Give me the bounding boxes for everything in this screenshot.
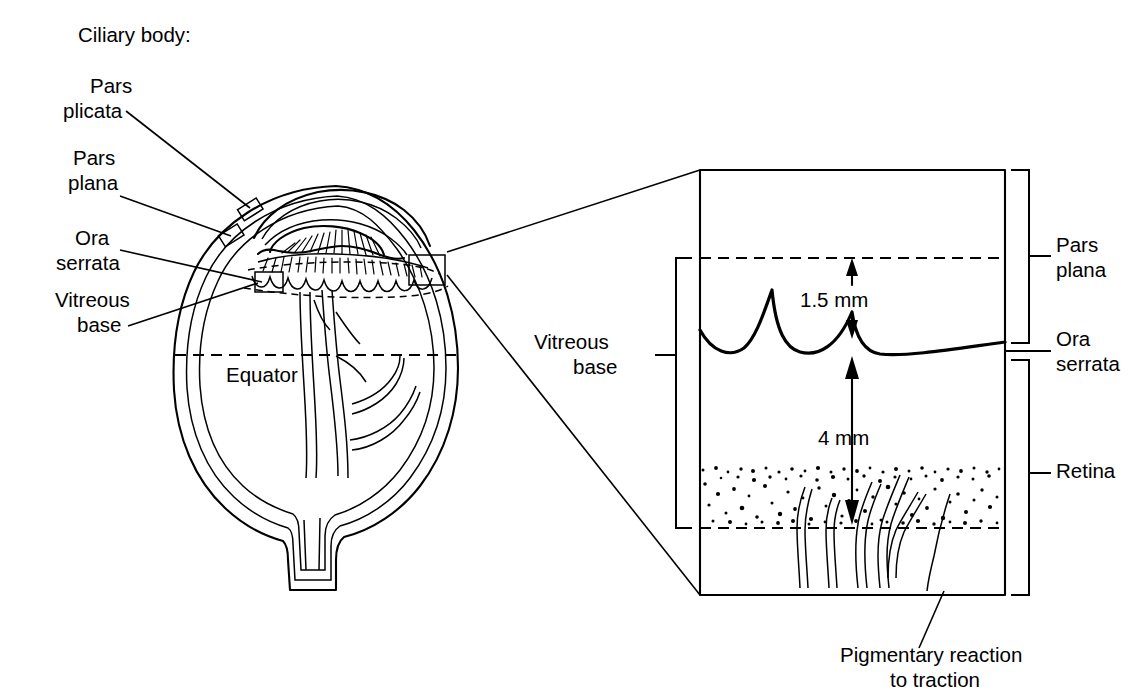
inset-label-ora-serrata-line1: Ora	[1056, 327, 1091, 350]
label-vitreous-base-line1: Vitreous	[55, 288, 130, 311]
ora-serrata-scallops	[252, 276, 432, 292]
inset-label-pars-plana-line2: plana	[1056, 258, 1107, 281]
optic-nerve-inner	[304, 518, 320, 570]
label-ora-serrata-line2: serrata	[56, 251, 120, 274]
pars-plana-bracket	[1011, 170, 1051, 343]
label-pigmentary-reaction-line1: Pigmentary reaction	[840, 643, 1022, 666]
inset-label-pars-plana-line1: Pars	[1056, 233, 1098, 256]
traction-strands	[797, 475, 950, 591]
vitreous-strands	[300, 290, 420, 478]
leader-pigmentary-reaction	[919, 591, 944, 648]
retina-bracket	[1011, 360, 1051, 595]
leader-vitreous-base	[128, 283, 258, 326]
equator-label: Equator	[226, 363, 298, 386]
label-ora-serrata-line1: Ora	[75, 226, 110, 249]
figure-root: Equator Ciliary body: Pars plicata Pars …	[0, 0, 1145, 696]
connector-upper	[447, 170, 700, 252]
label-vitreous-base-line2: base	[77, 313, 121, 336]
label-pars-plana-line1: Pars	[73, 146, 115, 169]
leader-pars-plana	[120, 196, 231, 236]
inset-label-retina: Retina	[1056, 459, 1116, 482]
leader-pars-plicata	[126, 111, 250, 208]
inset-label-vitreous-base-line2: base	[573, 355, 617, 378]
eye-cross-section-group: Equator Ciliary body: Pars plicata Pars …	[55, 23, 458, 590]
label-pars-plana-line2: plana	[68, 171, 119, 194]
measure-4mm-label: 4 mm	[818, 426, 869, 449]
inset-panel-group: 1.5 mm 4 mm	[534, 170, 1120, 691]
anatomy-diagram-canvas: Equator Ciliary body: Pars plicata Pars …	[0, 0, 1145, 696]
ciliary-body-heading: Ciliary body:	[78, 23, 191, 46]
inset-label-vitreous-base-line1: Vitreous	[534, 330, 609, 353]
inset-label-ora-serrata-line2: serrata	[1056, 352, 1120, 375]
label-pars-plicata-line2: plicata	[63, 99, 123, 122]
connector-lower	[447, 275, 700, 595]
label-pigmentary-reaction-line2: to traction	[890, 668, 980, 691]
measure-1-5mm-label: 1.5 mm	[800, 288, 868, 311]
magnification-connector-lines	[447, 170, 700, 595]
label-pars-plicata-line1: Pars	[90, 74, 132, 97]
vitreous-base-bracket	[655, 258, 692, 528]
pars-plana-marker	[218, 224, 244, 247]
